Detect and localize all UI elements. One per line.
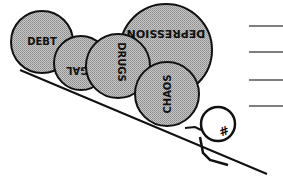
- cartoon-illustration: DEPRESSION DEBT LEGAL DRUGS CHAOS #: [0, 0, 283, 188]
- boulder-label-depression: DEPRESSION: [127, 27, 206, 40]
- boulder-label-drugs: DRUGS: [116, 42, 127, 82]
- boulder-chaos: CHAOS: [135, 62, 199, 126]
- boulder-label-chaos: CHAOS: [162, 74, 173, 113]
- boulder-label-debt: DEBT: [27, 36, 57, 47]
- figure-arms: [185, 127, 201, 130]
- right-side-lines: [249, 26, 283, 106]
